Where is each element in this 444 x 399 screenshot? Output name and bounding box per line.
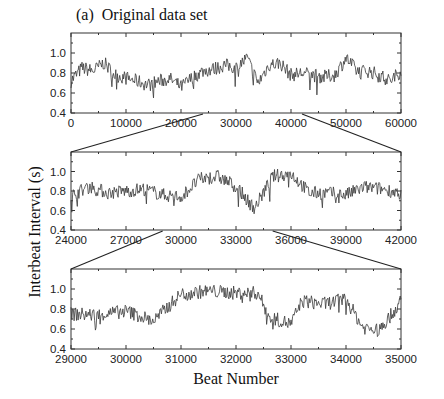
y-tick-label: 0.6 (50, 205, 66, 217)
chart-panel-1: 01000020000300004000050000600000.40.60.8… (50, 33, 417, 129)
x-tick-label: 27000 (110, 234, 142, 246)
chart-panel-2: 240002700030000330003600039000420000.40.… (50, 152, 417, 246)
x-tick-label: 42000 (385, 234, 417, 246)
x-tick-label: 10000 (110, 117, 142, 129)
x-tick-label: 32000 (220, 353, 252, 365)
x-tick-label: 60000 (385, 117, 417, 129)
x-tick-label: 33000 (220, 234, 252, 246)
y-tick-label: 0.8 (50, 185, 66, 197)
x-tick-label: 31000 (165, 353, 197, 365)
y-tick-label: 1.0 (50, 47, 66, 59)
y-axis-label: Interbeat Interval (s) (26, 166, 44, 297)
x-tick-label: 30000 (110, 353, 142, 365)
y-tick-label: 0.4 (50, 343, 67, 355)
y-tick-label: 0.8 (50, 67, 66, 79)
x-tick-label: 35000 (385, 353, 417, 365)
data-trace (71, 169, 401, 214)
x-tick-label: 50000 (330, 117, 362, 129)
x-tick-label: 39000 (330, 234, 362, 246)
y-tick-label: 0.8 (50, 303, 66, 315)
y-tick-label: 0.6 (50, 87, 66, 99)
x-tick-label: 40000 (275, 117, 307, 129)
x-tick-label: 33000 (275, 353, 307, 365)
data-trace (71, 285, 401, 336)
y-tick-label: 1.0 (50, 166, 66, 178)
x-tick-label: 34000 (330, 353, 362, 365)
y-tick-label: 0.4 (50, 224, 67, 236)
x-axis-label: Beat Number (193, 370, 279, 388)
x-tick-label: 0 (68, 117, 74, 129)
x-tick-label: 30000 (220, 117, 252, 129)
x-tick-label: 30000 (165, 234, 197, 246)
y-tick-label: 0.4 (50, 107, 67, 119)
data-trace (71, 54, 401, 98)
panel-title: (a) Original data set (76, 6, 208, 24)
figure: 01000020000300004000050000600000.40.60.8… (0, 0, 444, 399)
y-tick-label: 1.0 (50, 283, 66, 295)
chart-panel-3: 290003000031000320003300034000350000.40.… (50, 269, 417, 365)
y-tick-label: 0.6 (50, 323, 66, 335)
